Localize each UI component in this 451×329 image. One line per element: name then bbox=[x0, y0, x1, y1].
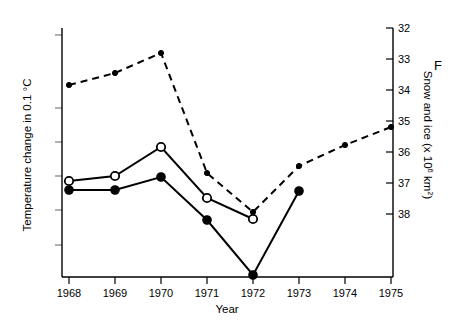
data-point-marker bbox=[111, 172, 119, 180]
data-point-marker bbox=[342, 142, 347, 147]
data-point-marker bbox=[295, 187, 303, 195]
y-left-ticks bbox=[55, 35, 62, 245]
y-right-tick-label: 34 bbox=[398, 84, 410, 96]
data-point-marker bbox=[296, 163, 301, 168]
data-point-marker bbox=[111, 186, 119, 194]
data-point-marker bbox=[388, 124, 393, 129]
x-tick-label: 1969 bbox=[103, 287, 127, 299]
line-chart: 32 33 34 35 36 37 38 1968 1969 1970 1971… bbox=[0, 0, 451, 329]
data-point-marker bbox=[203, 216, 211, 224]
data-point-marker bbox=[66, 82, 71, 87]
data-point-marker bbox=[65, 186, 73, 194]
y-right-ticks bbox=[386, 28, 393, 214]
data-point-marker bbox=[249, 271, 257, 279]
y-left-axis-title: Temperature change in 0.1 °C bbox=[21, 79, 33, 232]
y-right-tick-label: 32 bbox=[398, 22, 410, 34]
x-axis-title: Year bbox=[215, 303, 238, 315]
data-point-marker bbox=[250, 209, 255, 214]
series-temp-open-markers bbox=[65, 143, 257, 223]
y-right-tick-label: 36 bbox=[398, 146, 410, 158]
x-tick-label: 1975 bbox=[379, 287, 403, 299]
x-tick-labels: 1968 1969 1970 1971 1972 1973 1974 1975 bbox=[57, 287, 403, 299]
data-point-marker bbox=[203, 194, 211, 202]
series-temp-filled-markers bbox=[65, 173, 303, 279]
x-tick-label: 1973 bbox=[287, 287, 311, 299]
x-tick-label: 1970 bbox=[149, 287, 173, 299]
x-ticks bbox=[69, 277, 391, 284]
data-point-marker bbox=[157, 143, 165, 151]
y-right-axis-title: Snow and ice (x 106 km2) bbox=[422, 71, 435, 200]
y-right-tick-label: 37 bbox=[398, 177, 410, 189]
y-right-tick-label: 38 bbox=[398, 208, 410, 220]
x-tick-label: 1972 bbox=[241, 287, 265, 299]
data-point-marker bbox=[65, 177, 73, 185]
y-right-axis-title-main: Snow and ice (x 10 bbox=[422, 71, 434, 169]
data-point-marker bbox=[158, 50, 163, 55]
series-temp-filled-line bbox=[69, 177, 299, 275]
y-right-axis-title-mid: km bbox=[422, 173, 434, 192]
data-point-marker bbox=[157, 173, 165, 181]
axis-frame bbox=[62, 28, 393, 277]
y-right-axis-title-end: ) bbox=[422, 195, 434, 199]
data-point-marker bbox=[249, 215, 257, 223]
y-right-tick-label: 33 bbox=[398, 53, 410, 65]
svg-text:Snow and ice (x 106 km2): Snow and ice (x 106 km2) bbox=[422, 71, 435, 200]
data-point-marker bbox=[204, 170, 209, 175]
series-temp-open-line bbox=[69, 147, 253, 219]
figure-container: 32 33 34 35 36 37 38 1968 1969 1970 1971… bbox=[0, 0, 451, 329]
y-right-tick-label: 35 bbox=[398, 115, 410, 127]
figure-label: F bbox=[434, 58, 442, 73]
y-right-tick-labels: 32 33 34 35 36 37 38 bbox=[398, 22, 410, 220]
x-tick-label: 1968 bbox=[57, 287, 81, 299]
data-point-marker bbox=[112, 70, 117, 75]
x-tick-label: 1974 bbox=[333, 287, 357, 299]
x-tick-label: 1971 bbox=[195, 287, 219, 299]
